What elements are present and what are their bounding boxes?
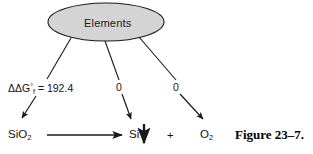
arrow-to-sio2: [22, 96, 36, 118]
gibbs-energy-value: = 192.4: [38, 82, 73, 94]
species-o2-subscript: 2: [209, 133, 213, 142]
figure-container: Elements ΔΔG°f = 192.4 0 0 SiO2 Si + O2 …: [0, 0, 313, 154]
gibbs-energy-label: ΔΔG°f = 192.4: [8, 83, 73, 95]
elements-node-label: Elements: [84, 18, 131, 29]
plus-operator: +: [167, 130, 173, 141]
figure-caption: Figure 23–7.: [235, 128, 304, 141]
species-o2-base: O: [200, 128, 209, 140]
species-sio2-base: SiO: [8, 128, 27, 140]
delta-g-symbol: Δ: [8, 82, 15, 94]
gibbs-g-letter: ΔG: [15, 82, 30, 94]
arrow-to-o2: [180, 94, 203, 119]
species-sio2: SiO2: [8, 129, 31, 141]
arrow-to-si: [122, 94, 131, 119]
species-si: Si: [129, 129, 139, 141]
branch-line-middle: [105, 41, 119, 80]
formation-subscript: f: [33, 88, 35, 95]
edge-label-o2-zero: 0: [173, 82, 179, 93]
branch-line-right: [139, 37, 176, 80]
species-sio2-subscript: 2: [27, 133, 31, 142]
branch-line-left: [47, 38, 71, 79]
edge-label-si-zero: 0: [116, 82, 122, 93]
species-o2: O2: [200, 129, 213, 141]
